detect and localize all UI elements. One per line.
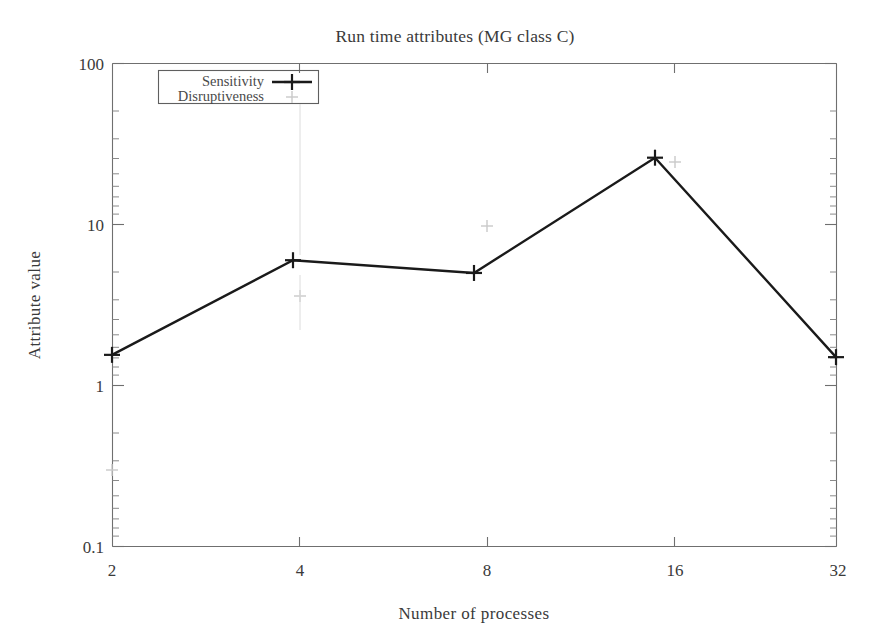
data-point-disruptiveness	[481, 220, 493, 232]
data-point-disruptiveness	[669, 156, 681, 168]
y-axis-ticks	[113, 64, 837, 547]
chart-svg: Run time attributes (MG class C)	[0, 0, 877, 643]
data-point-sensitivity	[466, 265, 482, 281]
legend-label-sensitivity[interactable]: Sensitivity	[202, 73, 265, 89]
x-tick-label-16: 16	[667, 561, 684, 580]
data-point-sensitivity	[285, 252, 301, 268]
y-tick-label-10: 10	[87, 216, 104, 235]
x-axis-ticks	[300, 64, 675, 547]
series-sensitivity-line	[112, 158, 836, 357]
legend-marker-plus	[284, 74, 300, 90]
chart-title: Run time attributes (MG class C)	[335, 26, 574, 46]
x-tick-label-8: 8	[483, 561, 492, 580]
x-axis-label: Number of processes	[398, 604, 549, 623]
y-tick-label-100: 100	[79, 55, 105, 74]
chart-legend[interactable]: Sensitivity Disruptiveness	[159, 71, 319, 105]
legend-marker-plus-faint	[286, 91, 298, 103]
plot-frame	[113, 64, 837, 547]
chart-figure: Run time attributes (MG class C)	[0, 0, 877, 643]
series-disruptiveness	[106, 156, 681, 476]
legend-label-disruptiveness[interactable]: Disruptiveness	[178, 88, 265, 104]
y-axis-label: Attribute value	[25, 251, 44, 359]
data-point-disruptiveness	[106, 464, 118, 476]
x-tick-label-2: 2	[108, 561, 117, 580]
y-tick-label-0.1: 0.1	[83, 538, 104, 557]
y-axis-minor-ticks	[113, 111, 837, 536]
legend-key-sensitivity	[272, 74, 312, 90]
x-tick-label-4: 4	[296, 561, 305, 580]
x-tick-label-32: 32	[830, 561, 847, 580]
y-tick-label-1: 1	[96, 377, 105, 396]
series-sensitivity-markers	[104, 150, 844, 365]
data-point-sensitivity	[104, 347, 120, 363]
